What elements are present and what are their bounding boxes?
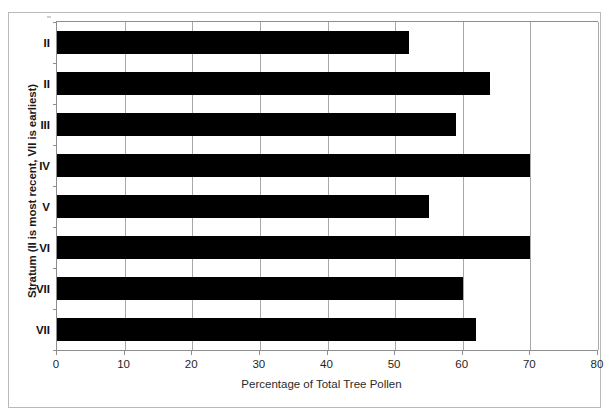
x-axis-label: 70 (523, 358, 536, 370)
y-axis-label: VII (36, 324, 50, 336)
x-axis-label: 20 (185, 358, 198, 370)
chart-figure: Stratum (II is most recent, VII is earli… (8, 12, 601, 408)
x-tick (597, 351, 598, 355)
x-tick (462, 351, 463, 355)
x-axis-label: 60 (455, 358, 468, 370)
gridline-80 (598, 22, 599, 350)
y-tick (53, 186, 57, 187)
y-tick (53, 227, 57, 228)
x-axis-label: 30 (252, 358, 265, 370)
y-axis-label: II (44, 37, 50, 49)
y-axis-title: Stratum (II is most recent, VII is earli… (26, 26, 38, 356)
x-tick (259, 351, 260, 355)
y-axis-label: VII (36, 283, 50, 295)
x-axis-label: 0 (53, 358, 59, 370)
y-axis-label: V (42, 201, 50, 213)
y-tick (53, 309, 57, 310)
y-axis-label: III (40, 119, 50, 131)
y-tick (53, 268, 57, 269)
x-tick (327, 351, 328, 355)
y-tick (53, 22, 57, 23)
y-tick (53, 104, 57, 105)
x-axis-label: 10 (117, 358, 130, 370)
x-axis-label: 80 (591, 358, 604, 370)
x-axis-label: 40 (320, 358, 333, 370)
x-tick (529, 351, 530, 355)
x-axis-ticks: 01020304050607080 (56, 351, 598, 377)
y-tick (53, 63, 57, 64)
plot-area: IIIIIIIIVVVIVIIVII (56, 21, 598, 351)
y-axis-label: IV (39, 160, 50, 172)
x-tick (394, 351, 395, 355)
x-axis-label: 50 (388, 358, 401, 370)
scan-artifact (47, 16, 51, 18)
x-tick (124, 351, 125, 355)
x-tick (56, 351, 57, 355)
y-axis-ticks: IIIIIIIIVVVIVIIVII (57, 22, 598, 350)
y-tick (53, 145, 57, 146)
x-axis-title: Percentage of Total Tree Pollen (49, 378, 594, 390)
x-tick (191, 351, 192, 355)
y-axis-label: VI (39, 242, 50, 254)
y-axis-label: II (44, 78, 50, 90)
